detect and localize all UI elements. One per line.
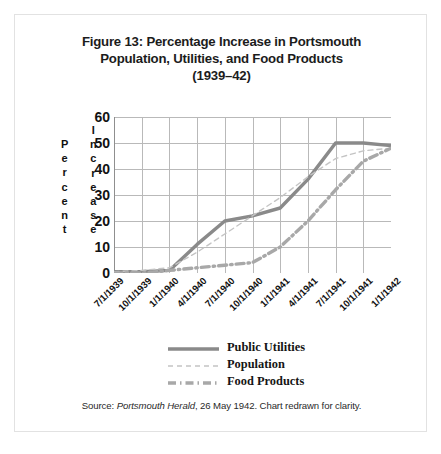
legend-swatch-icon bbox=[167, 375, 220, 387]
source-note: Source: Portsmouth Herald, 26 May 1942. … bbox=[15, 400, 428, 411]
legend-label: Population bbox=[227, 357, 285, 372]
data-series-lines bbox=[114, 117, 391, 273]
series-line bbox=[114, 143, 391, 272]
source-publication: Portsmouth Herald bbox=[117, 400, 195, 411]
legend-label: Food Products bbox=[227, 374, 304, 389]
x-axis-tick-label: 4/1/1940 bbox=[175, 275, 209, 309]
y-axis-tick-label: 30 bbox=[76, 187, 110, 203]
legend-item: Public Utilities bbox=[167, 340, 305, 354]
y-axis-tick-label: 50 bbox=[76, 135, 110, 151]
y-axis-tick-label: 10 bbox=[76, 239, 110, 255]
series-line bbox=[114, 148, 391, 272]
y-axis-tick-label: 0 bbox=[76, 265, 110, 281]
y-axis-tick-label: 60 bbox=[76, 109, 110, 125]
figure-frame: Figure 13: Percentage Increase in Portsm… bbox=[14, 14, 427, 432]
plot-area bbox=[114, 117, 391, 273]
source-suffix: , 26 May 1942. Chart redrawn for clarity… bbox=[195, 400, 361, 411]
legend-item: Food Products bbox=[167, 374, 305, 388]
legend-label: Public Utilities bbox=[227, 340, 305, 355]
series-line bbox=[114, 148, 391, 273]
x-axis-tick-label: 4/1/1941 bbox=[285, 275, 319, 309]
legend-swatch-icon bbox=[167, 341, 220, 353]
y-axis-tick-label: 20 bbox=[76, 213, 110, 229]
x-axis-tick-labels: 7/1/193910/1/19391/1/19404/1/19407/1/194… bbox=[114, 275, 414, 335]
y-axis-tick-label: 40 bbox=[76, 161, 110, 177]
legend-swatch-icon bbox=[167, 358, 220, 370]
legend-item: Population bbox=[167, 357, 305, 371]
source-prefix: Source: bbox=[82, 400, 117, 411]
y-axis-tick-labels: 0102030405060 bbox=[74, 117, 110, 273]
chart-legend: Public UtilitiesPopulationFood Products bbox=[167, 340, 305, 388]
x-axis-tick-label: 1/1/1942 bbox=[369, 275, 403, 309]
